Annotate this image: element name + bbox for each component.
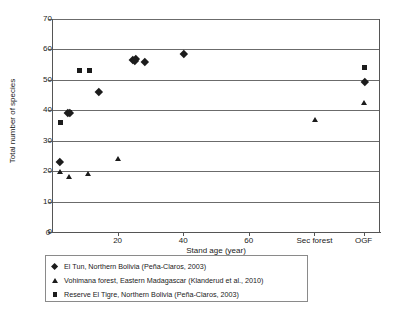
triangle-legend-icon xyxy=(46,274,64,288)
gridline xyxy=(53,110,379,111)
square-marker-icon xyxy=(87,68,92,73)
chart-legend: El Tun, Northern Bolivia (Peña-Claros, 2… xyxy=(45,255,308,302)
x-tick-label: 20 xyxy=(113,236,122,245)
square-marker-icon xyxy=(77,68,82,73)
x-tick-label: OGF xyxy=(355,236,372,245)
triangle-marker-icon xyxy=(57,169,63,174)
gridline xyxy=(53,141,379,142)
triangle-marker-icon xyxy=(85,171,91,176)
square-marker-icon xyxy=(362,65,367,70)
y-axis-title: Total number of species xyxy=(8,56,17,186)
legend-item[interactable]: El Tun, Northern Bolivia (Peña-Claros, 2… xyxy=(46,259,307,274)
legend-item[interactable]: Reserve El Tigre, Northern Bolivia (Peña… xyxy=(46,287,307,302)
gridline xyxy=(53,171,379,172)
x-axis-line xyxy=(52,232,381,233)
scatter-chart-figure: 010203040506070 204060Sec forestOGF Stan… xyxy=(0,0,403,313)
legend-item-label: Reserve El Tigre, Northern Bolivia (Peña… xyxy=(64,291,239,299)
legend-item[interactable]: Vohimana forest, Eastern Madagascar (Kla… xyxy=(46,273,307,288)
x-tick-label: 60 xyxy=(244,236,253,245)
x-axis-title: Stand age (year) xyxy=(52,246,380,255)
diamond-legend-icon xyxy=(46,260,64,274)
square-marker-icon xyxy=(67,110,72,115)
gridline xyxy=(53,202,379,203)
diamond-marker-icon xyxy=(180,49,188,57)
x-tick-label: 40 xyxy=(179,236,188,245)
x-origin-label: 0 xyxy=(46,228,50,237)
diamond-marker-icon xyxy=(95,88,103,96)
triangle-marker-icon xyxy=(361,100,367,105)
gridline xyxy=(53,80,379,81)
diamond-marker-icon xyxy=(141,58,149,66)
diamond-marker-icon xyxy=(56,157,64,165)
legend-item-label: El Tun, Northern Bolivia (Peña-Claros, 2… xyxy=(64,263,206,271)
triangle-marker-icon xyxy=(312,117,318,122)
legend-item-label: Vohimana forest, Eastern Madagascar (Kla… xyxy=(64,277,263,285)
gridline xyxy=(53,19,379,20)
triangle-marker-icon xyxy=(115,156,121,161)
square-legend-icon xyxy=(46,288,64,302)
plot-area xyxy=(52,19,380,232)
square-marker-icon xyxy=(58,120,63,125)
x-tick-label: Sec forest xyxy=(296,236,332,245)
gridline xyxy=(53,49,379,50)
triangle-marker-icon xyxy=(66,174,72,179)
